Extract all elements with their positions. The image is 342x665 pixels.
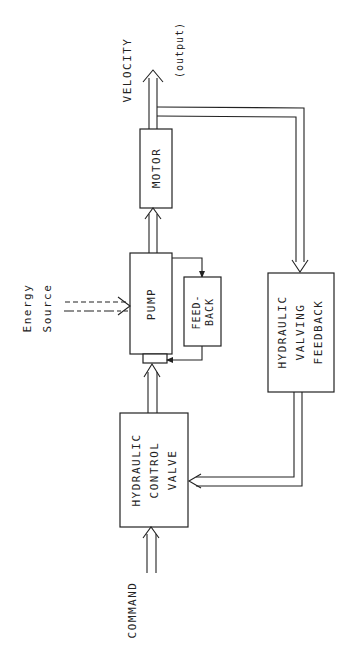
pump-feedback-label-1: FEED- [191,294,202,329]
motor-to-valving-feedback-line [157,107,308,272]
motor-block: MOTOR [140,129,172,208]
command-label: COMMAND [126,582,139,639]
energy-source-label-1: Energy [21,284,34,333]
energy-source-label-2: Source [41,284,54,333]
valving-feedback-to-valve-line [189,392,302,488]
pump-feedback-label-2: BACK [204,298,215,326]
valving-feedback-label-3: FEEDBACK [312,300,325,365]
hydraulic-valving-feedback-block: HYDRAULIC VALVING FEEDBACK [268,273,334,392]
hydraulic-control-valve-block: HYDRAULIC CONTROL VALVE [120,413,188,527]
command-input-arrow [143,527,159,573]
pump-label: PUMP [145,288,158,321]
energy-source-arrow [64,297,130,315]
pump-to-motor-arrow [145,208,161,253]
control-valve-label-1: HYDRAULIC [130,433,143,506]
control-valve-label-2: CONTROL [148,442,161,499]
output-note-label: (output) [174,22,185,78]
control-valve-label-3: VALVE [166,450,179,491]
valving-feedback-label-2: VALVING [294,304,307,361]
pump-block: PUMP [130,253,172,363]
pump-feedback-block: FEED- BACK [184,277,221,346]
velocity-label: VELOCITY [121,38,134,103]
block-diagram: MOTOR PUMP FEED- BACK Energy Source [0,0,342,665]
valve-to-pump-arrow [144,364,160,413]
motor-label: MOTOR [150,148,163,189]
valving-feedback-label-1: HYDRAULIC [276,295,289,368]
output-arrow [143,70,163,129]
